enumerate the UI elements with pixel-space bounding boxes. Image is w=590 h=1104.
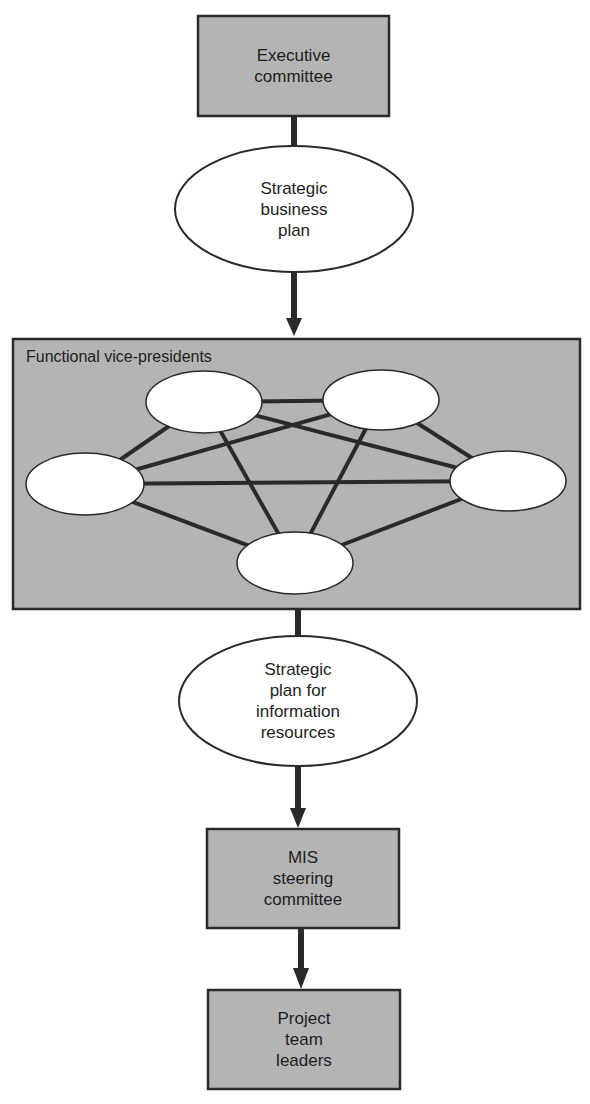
strategic-plan-info-label: Strategic plan for information resources <box>179 636 417 766</box>
vp-ellipse-bottom <box>237 532 353 594</box>
strategic-business-plan-label: Strategic business plan <box>175 146 413 272</box>
vp-ellipse-right <box>450 451 566 511</box>
vp-ellipse-left <box>26 453 144 515</box>
arrowhead-icon <box>290 808 306 828</box>
mis-steering-committee-label: MIS steering committee <box>207 829 399 928</box>
arrowhead-icon <box>286 318 302 336</box>
functional-vps-title: Functional vice-presidents <box>26 348 212 366</box>
vp-ellipse-top-left <box>146 371 262 433</box>
arrowhead-icon <box>293 968 309 989</box>
executive-committee-label: Executive committee <box>198 16 389 116</box>
vp-ellipse-top-right <box>323 370 439 430</box>
project-team-leaders-label: Project team leaders <box>208 990 400 1089</box>
